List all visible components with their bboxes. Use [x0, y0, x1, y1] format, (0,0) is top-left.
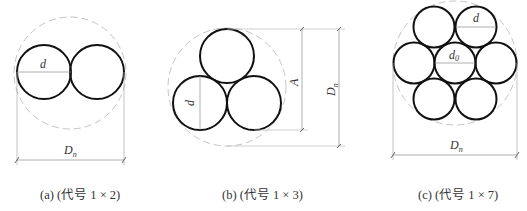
wire-diameter-label: d: [40, 57, 47, 71]
wire-right: [70, 45, 124, 99]
panel-a: d Dn: [14, 17, 126, 165]
center-wire-diameter-label: d0: [449, 48, 459, 63]
caption-c: (c) (代号 1 × 7): [418, 184, 498, 203]
wire-diameter-label: d: [183, 99, 197, 106]
panel-b: d A Dn: [168, 27, 345, 148]
wire-left: [394, 43, 435, 84]
wire-bottom-right: [227, 76, 281, 130]
strand-diameter-label: Dn: [449, 138, 463, 154]
panel-c: d d0 Dn: [391, 1, 519, 160]
caption-b: (b) (代号 1 × 3): [222, 184, 303, 203]
wire-top: [200, 29, 254, 83]
height-label: A: [287, 78, 301, 87]
wire-right: [476, 43, 517, 84]
wire-top-left: [414, 7, 455, 48]
wire-diameter-label: d: [473, 11, 480, 25]
strand-diameter-label: Dn: [324, 83, 340, 97]
wire-bottom-left: [414, 79, 455, 120]
caption-a: (a) (代号 1 × 2): [40, 184, 120, 203]
strand-diameter-label: Dn: [63, 143, 77, 159]
circumscribed-circle: [168, 28, 286, 146]
strand-cross-section-diagram: d Dn d A Dn d: [0, 0, 527, 211]
wire-bottom-right: [456, 79, 497, 120]
